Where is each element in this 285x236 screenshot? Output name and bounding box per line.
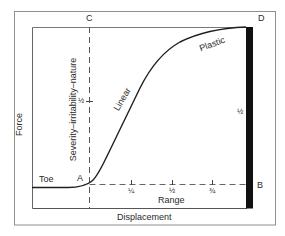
force-displacement-diagram: C D B A Toe Linear Plastic ½ ½ ¼ ½ ¾ Ran… [0,0,285,236]
range-label: Range [158,196,185,205]
diagram-graphics [0,0,285,236]
point-c-label: C [86,14,93,23]
point-b-label: B [257,181,263,190]
outer-frame [15,12,276,226]
half-marker-right: ½ [237,108,243,116]
tick-label-three-quarter: ¾ [209,187,215,195]
severity-irritability-nature-label: Severity–irritability–nature [69,52,78,168]
x-axis-label: Displacement [117,213,172,222]
half-marker-left: ½ [78,97,84,105]
tick-label-half: ½ [169,187,175,195]
tick-label-quarter: ¼ [128,187,134,195]
point-a-label: A [77,174,83,183]
y-axis-label: Force [15,113,24,136]
limit-bar-bd [246,27,253,209]
toe-label: Toe [39,175,54,184]
point-d-label: D [258,14,265,23]
force-displacement-curve [32,27,246,188]
